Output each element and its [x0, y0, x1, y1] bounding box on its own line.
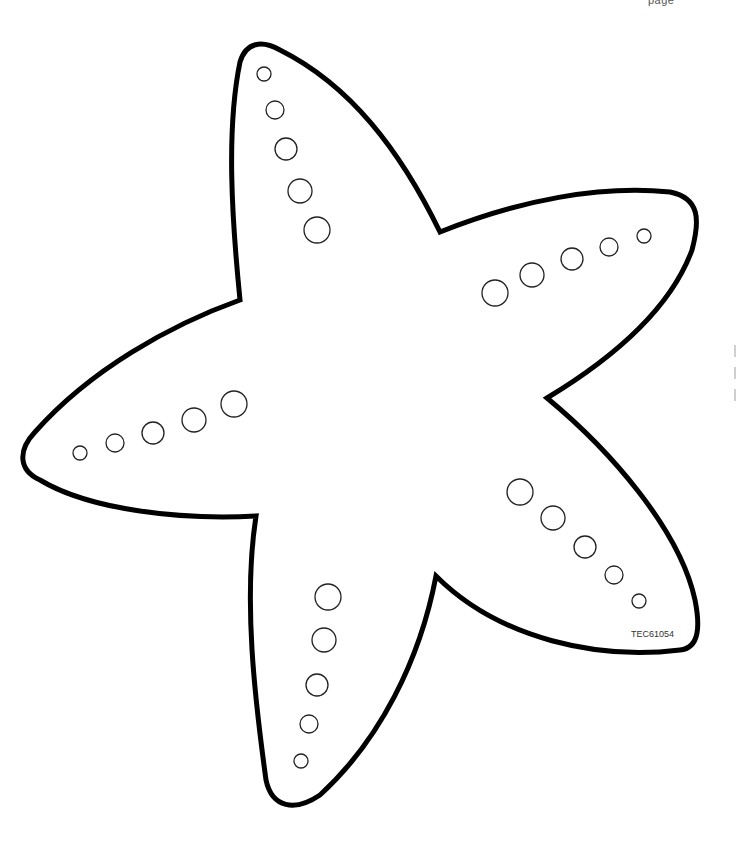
starfish-outline	[23, 44, 698, 805]
starfish-illustration	[0, 0, 737, 845]
item-code: TEC61054	[631, 629, 674, 639]
